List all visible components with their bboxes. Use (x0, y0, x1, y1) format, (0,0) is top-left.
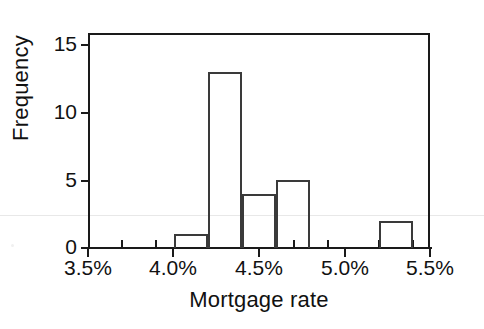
x-tick-label-4-5: 4.5% (219, 256, 299, 279)
y-tick-label-5: 5 (47, 169, 77, 190)
histogram-bar (379, 221, 413, 248)
y-tick-label-15: 15 (47, 33, 77, 54)
y-tick-label-10: 10 (47, 101, 77, 122)
y-tick-5 (81, 180, 89, 182)
scan-artifact-speck (11, 244, 14, 247)
x-minor-tick-4-9 (327, 240, 329, 248)
y-tick-15 (81, 44, 89, 46)
histogram-bar (208, 72, 242, 248)
histogram-bar (174, 234, 208, 248)
x-axis-title: Mortgage rate (88, 287, 430, 313)
x-minor-tick-3-7 (121, 240, 123, 248)
y-tick-label-0: 0 (47, 236, 77, 257)
histogram-figure: 0 5 10 15 3.5% 4.0% 4.5% 5.0% 5.5% Mortg… (0, 0, 484, 329)
histogram-bar (242, 194, 276, 248)
y-tick-10 (81, 112, 89, 114)
x-tick-label-5-5: 5.5% (390, 256, 470, 279)
histogram-bar (276, 180, 310, 248)
x-minor-tick-3-9 (155, 240, 157, 248)
y-axis-title: Frequency (8, 3, 34, 173)
x-tick-label-4-0: 4.0% (133, 256, 213, 279)
x-tick-label-3-5: 3.5% (48, 256, 128, 279)
x-tick-label-5-0: 5.0% (305, 256, 385, 279)
